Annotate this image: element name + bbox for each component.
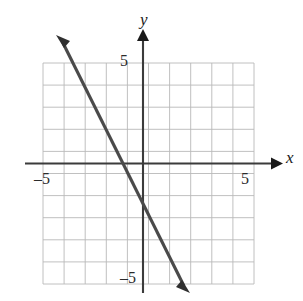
graph-canvas: 5 –5 –5 5 y x	[0, 0, 303, 301]
y-axis-tick-label-positive: 5	[120, 52, 128, 69]
y-axis-label: y	[138, 10, 148, 29]
x-axis-tick-label-positive: 5	[241, 170, 249, 187]
figure-background	[0, 0, 303, 301]
x-axis-label: x	[285, 148, 294, 167]
coordinate-plane-figure: 5 –5 –5 5 y x	[0, 0, 303, 301]
y-axis-tick-label-negative: –5	[119, 269, 136, 286]
x-axis-tick-label-negative: –5	[33, 170, 50, 187]
